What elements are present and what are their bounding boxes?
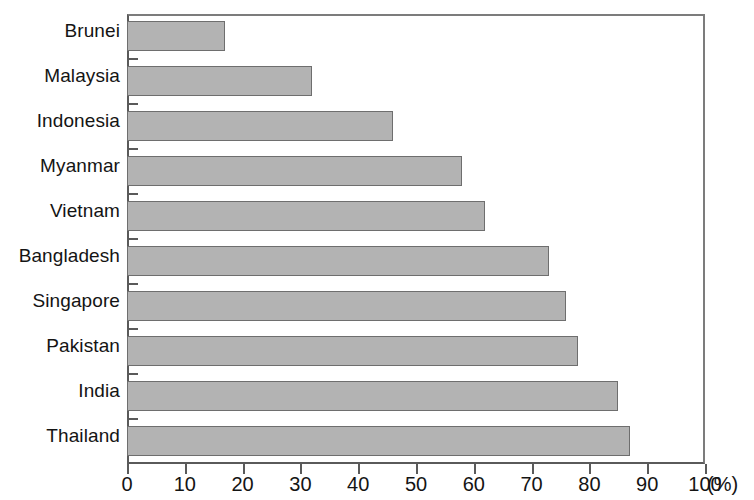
x-axis-tick-label-30: 30 <box>289 473 311 495</box>
bar-myanmar <box>127 156 462 186</box>
bar-brunei <box>127 21 225 51</box>
x-axis-tick-label-20: 20 <box>231 473 253 495</box>
bar-thailand <box>127 426 630 456</box>
y-axis-label-9: Thailand <box>0 426 120 446</box>
x-axis-tick-label-50: 50 <box>405 473 427 495</box>
x-axis-unit-label: (%) <box>707 473 738 495</box>
bar-malaysia <box>127 66 312 96</box>
x-axis-tick-label-90: 90 <box>636 473 658 495</box>
y-axis-category-labels: Brunei Malaysia Indonesia Myanmar Vietna… <box>0 14 120 464</box>
y-axis-label-1: Malaysia <box>0 66 120 86</box>
y-axis-label-3: Myanmar <box>0 156 120 176</box>
y-axis-tick-3 <box>127 193 138 195</box>
x-axis-tick-label-40: 40 <box>347 473 369 495</box>
bar-indonesia <box>127 111 393 141</box>
horizontal-bar-chart: Brunei Malaysia Indonesia Myanmar Vietna… <box>0 0 754 500</box>
bar-bangladesh <box>127 246 549 276</box>
y-axis-label-5: Bangladesh <box>0 246 120 266</box>
bar-pakistan <box>127 336 578 366</box>
y-axis-label-2: Indonesia <box>0 111 120 131</box>
y-axis-label-7: Pakistan <box>0 336 120 356</box>
y-axis-tick-7 <box>127 373 138 375</box>
y-axis-tick-1 <box>127 103 138 105</box>
x-axis-tick-label-10: 10 <box>174 473 196 495</box>
y-axis-label-4: Vietnam <box>0 201 120 221</box>
y-axis-tick-4 <box>127 238 138 240</box>
x-axis-tick-label-0: 0 <box>121 473 132 495</box>
y-axis-tick-5 <box>127 283 138 285</box>
y-axis-label-0: Brunei <box>0 21 120 41</box>
y-axis-tick-6 <box>127 328 138 330</box>
bar-india <box>127 381 618 411</box>
x-axis-tick-label-70: 70 <box>520 473 542 495</box>
bars-layer <box>127 14 705 464</box>
x-axis-tick-label-60: 60 <box>463 473 485 495</box>
bar-singapore <box>127 291 566 321</box>
y-axis-tick-0 <box>127 58 138 60</box>
y-axis-label-6: Singapore <box>0 291 120 311</box>
y-axis-tick-2 <box>127 148 138 150</box>
y-axis-tick-8 <box>127 418 138 420</box>
x-axis-tick-label-80: 80 <box>578 473 600 495</box>
y-axis-label-8: India <box>0 381 120 401</box>
bar-vietnam <box>127 201 485 231</box>
